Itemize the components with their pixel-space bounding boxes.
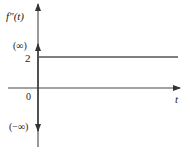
x-axis-label: t bbox=[175, 93, 179, 105]
y-axis-label: f″(t) bbox=[6, 10, 24, 23]
origin-label: 0 bbox=[26, 91, 31, 102]
graph: f″(t) (∞) 2 0 (−∞) t bbox=[0, 0, 190, 157]
step-value-label: 2 bbox=[25, 52, 31, 64]
impulse-down-label: (−∞) bbox=[9, 121, 28, 133]
impulse-up-label: (∞) bbox=[13, 40, 27, 52]
